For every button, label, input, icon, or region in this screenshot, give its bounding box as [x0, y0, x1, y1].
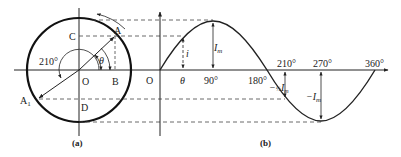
label-origin-b: O — [146, 75, 153, 86]
label-i: i — [186, 48, 189, 59]
label-270: 270° — [313, 58, 332, 69]
label-210: 210° — [277, 58, 296, 69]
label-angle-210: 210° — [39, 56, 58, 67]
phasor-oa-arrow — [79, 37, 114, 70]
phasor-sine-diagram: O A B C D A1 θ 210° (a) O θ 90° 180° — [0, 0, 401, 157]
label-theta-a: θ — [99, 55, 104, 66]
label-origin-a: O — [82, 76, 89, 87]
label-point-a1: A1 — [20, 95, 31, 108]
label-point-d: D — [81, 102, 88, 113]
label-360: 360° — [365, 58, 384, 69]
label-180: 180° — [248, 75, 267, 86]
label-point-b: B — [112, 76, 119, 87]
label-point-a: A — [114, 25, 122, 36]
caption-a: (a) — [72, 138, 83, 148]
label-theta-b: θ — [180, 75, 185, 86]
label-point-c: C — [69, 31, 76, 42]
label-im: Im — [213, 42, 222, 55]
phasor-circle-figure: O A B C D A1 θ 210° (a) — [14, 8, 148, 148]
caption-b: (b) — [260, 138, 271, 148]
sine-wave-figure: O θ 90° 180° 210° 270° 360° i Im −½Im −I… — [146, 12, 388, 148]
label-neg-im: −Im — [306, 91, 321, 104]
sine-curve — [160, 21, 375, 121]
label-neg-half-im: −½Im — [269, 82, 289, 94]
label-90: 90° — [204, 75, 218, 86]
phasor-oa1-arrow — [39, 70, 79, 98]
